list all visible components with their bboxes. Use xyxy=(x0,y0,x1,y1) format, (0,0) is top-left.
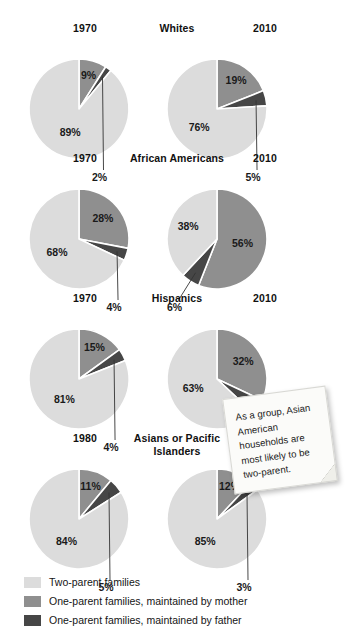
slice-label: 15% xyxy=(84,341,106,353)
slice-label: 56% xyxy=(232,237,254,249)
chart-row: 1970African Americans201028%68%4%56%38%6… xyxy=(0,152,353,182)
legend-item: One-parent families, maintained by mothe… xyxy=(24,593,334,609)
legend-swatch-icon xyxy=(24,577,41,588)
slice-label: 11% xyxy=(80,480,101,492)
legend-item: Two-parent families xyxy=(24,574,334,590)
slice-label: 76% xyxy=(189,121,211,133)
year-label-right: 2010 xyxy=(222,22,308,35)
chart-legend: Two-parent familiesOne-parent families, … xyxy=(24,574,334,627)
legend-swatch-icon xyxy=(24,596,41,607)
callout-note-body: As a group, Asian American households ar… xyxy=(222,386,338,495)
slice-label: 38% xyxy=(178,220,200,232)
slice-label: 9% xyxy=(81,69,97,81)
slice-label: 84% xyxy=(56,535,78,547)
page-curl-icon xyxy=(319,464,338,483)
slice-label: 68% xyxy=(47,246,69,258)
group-name-label: Hispanics xyxy=(118,292,236,305)
pie-chart-figure: 1970Whites20109%89%2%19%76%5%1970African… xyxy=(0,0,353,627)
year-label-left: 1970 xyxy=(42,152,128,165)
slice-label: 28% xyxy=(92,212,114,224)
year-label-right: 2010 xyxy=(222,292,308,305)
group-name-label: African Americans xyxy=(118,152,236,165)
chart-row: 1970Whites20109%89%2%19%76%5% xyxy=(0,22,353,52)
legend-label: Two-parent families xyxy=(49,576,140,588)
group-name-label: Whites xyxy=(118,22,236,35)
slice-label: 89% xyxy=(60,126,82,138)
year-label-left: 1970 xyxy=(42,22,128,35)
slice-label: 32% xyxy=(233,355,255,367)
year-label-right: 2010 xyxy=(222,152,308,165)
slice-label: 85% xyxy=(195,535,217,547)
slice-label: 81% xyxy=(54,393,76,405)
callout-note-text: As a group, Asian American households ar… xyxy=(235,400,327,483)
row-header: 1970African Americans2010 xyxy=(0,152,353,182)
chart-row: 1970Hispanics201015%81%4%32%63%5% xyxy=(0,292,353,322)
row-header: 1970Whites2010 xyxy=(0,22,353,52)
callout-note: As a group, Asian American households ar… xyxy=(222,386,338,495)
legend-swatch-icon xyxy=(24,615,41,626)
legend-label: One-parent families, maintained by mothe… xyxy=(49,595,247,607)
year-label-left: 1980 xyxy=(42,432,128,445)
slice-label: 19% xyxy=(226,74,248,86)
slice-label: 63% xyxy=(183,382,205,394)
legend-label: One-parent families, maintained by fathe… xyxy=(49,614,242,626)
legend-item: One-parent families, maintained by fathe… xyxy=(24,612,334,627)
year-label-left: 1970 xyxy=(42,292,128,305)
pie-slice xyxy=(29,59,129,159)
row-header: 1970Hispanics2010 xyxy=(0,292,353,322)
group-name-label: Asians or Pacific Islanders xyxy=(118,432,236,457)
